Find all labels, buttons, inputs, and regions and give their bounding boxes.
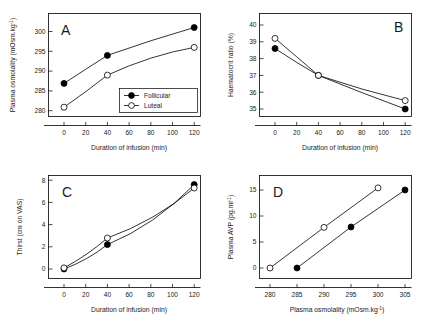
panel-c: 0 2 4 6 8 0 20 40 60 80: [0, 165, 211, 329]
data-point: [61, 265, 67, 271]
x-axis-labels: 0 20 40 60 80 100 120: [62, 291, 200, 298]
y-tick-label: 4: [42, 221, 46, 228]
data-point: [315, 72, 321, 78]
x-tick-label: 20: [82, 129, 90, 136]
data-point: [104, 242, 110, 248]
series-points-luteal: [272, 35, 408, 103]
series-line-luteal: [275, 38, 405, 100]
series-line-follicular: [64, 28, 194, 84]
panel-letter: D: [273, 184, 283, 200]
legend-marker-luteal: [129, 103, 135, 109]
x-tick-label: 20: [293, 129, 301, 136]
x-tick-label: 305: [399, 291, 410, 298]
panel-d-plot: 0 5 10 15 280 285 290 295 300 305: [211, 165, 422, 329]
y-tick-label: 0: [42, 265, 46, 272]
y-tick-label: 295: [34, 48, 45, 55]
x-tick-label: 0: [62, 129, 66, 136]
y-axis-title: Plasma osmolality (mOsm.kg-1): [9, 18, 17, 112]
y-tick-label: 36: [249, 89, 257, 96]
y-axis-labels: 0 2 4 6 8: [42, 177, 46, 273]
data-point: [272, 35, 278, 41]
y-tick-label: 8: [42, 177, 46, 184]
x-tick-label: 80: [147, 291, 155, 298]
data-point: [191, 185, 197, 191]
data-point: [375, 185, 381, 191]
legend: Follicular Luteal: [120, 89, 198, 113]
legend-label-follicular: Follicular: [144, 92, 171, 99]
data-point: [402, 106, 408, 112]
panel-b: 35 36 37 38 39 40 0 20 40 60: [211, 0, 422, 164]
series-points-follicular: [272, 46, 408, 113]
series-line-follicular: [275, 49, 405, 110]
y-tick-label: 0: [253, 264, 257, 271]
x-tick-label: 60: [125, 291, 133, 298]
x-tick-label: 40: [315, 129, 323, 136]
y-axis-title-main: Plasma osmolality: [9, 57, 17, 112]
legend-label-luteal: Luteal: [144, 102, 163, 109]
data-point: [348, 224, 354, 230]
y-axis-labels: 35 36 37 38 39 40: [249, 21, 257, 112]
figure-canvas: 280 285 290 295 300 0 20 40 60: [0, 0, 422, 329]
x-tick-label: 295: [345, 291, 356, 298]
y-axis-ticks: [260, 190, 264, 268]
y-axis-title-close: ): [9, 18, 17, 20]
data-point: [191, 25, 197, 31]
data-point: [104, 72, 110, 78]
x-tick-label: 100: [167, 291, 178, 298]
panel-d: 0 5 10 15 280 285 290 295 300 305: [211, 165, 422, 329]
plot-frame: [260, 14, 412, 117]
x-axis-title: Duration of infusion (min): [91, 306, 167, 314]
x-tick-label: 40: [104, 291, 112, 298]
x-axis-ticks: [275, 122, 405, 126]
data-point: [104, 52, 110, 58]
x-tick-label: 0: [273, 129, 277, 136]
series-points-follicular: [61, 182, 197, 272]
y-tick-label: 2: [42, 243, 46, 250]
y-axis-title-main: Plasma AVP (pg.ml: [227, 201, 235, 259]
svg-text:Plasma AVP (pg.ml-1): Plasma AVP (pg.ml-1): [227, 195, 235, 259]
y-axis-title: Haematocrit ratio (%): [227, 33, 235, 97]
x-axis-labels: 0 20 40 60 80 100 120: [273, 129, 411, 136]
y-axis-ticks: [49, 32, 53, 111]
y-tick-label: 10: [249, 212, 257, 219]
y-tick-label: 15: [249, 186, 257, 193]
x-axis-title: Duration of infusion (min): [91, 144, 167, 152]
x-axis-ticks: [270, 284, 405, 288]
data-point: [191, 44, 197, 50]
x-tick-label: 280: [264, 291, 275, 298]
data-point: [321, 224, 327, 230]
y-axis-title-unit: (mOsm.kg: [9, 24, 17, 56]
x-tick-label: 80: [147, 129, 155, 136]
panel-a: 280 285 290 295 300 0 20 40 60: [0, 0, 211, 164]
legend-marker-follicular: [129, 93, 135, 99]
data-point: [294, 265, 300, 271]
x-tick-label: 60: [125, 129, 133, 136]
data-point: [402, 187, 408, 193]
svg-text:Plasma osmolality: Plasma osmolality (mOsm.kg-1): [9, 18, 17, 112]
x-tick-label: 0: [62, 291, 66, 298]
x-tick-label: 40: [104, 129, 112, 136]
y-tick-label: 37: [249, 72, 257, 79]
panel-letter: C: [62, 184, 72, 200]
data-point: [267, 265, 273, 271]
panel-a-plot: 280 285 290 295 300 0 20 40 60: [0, 0, 211, 164]
x-tick-label: 120: [189, 291, 200, 298]
x-axis-ticks: [64, 122, 194, 126]
data-point: [61, 104, 67, 110]
panel-letter: A: [61, 22, 71, 38]
x-tick-label: 120: [189, 129, 200, 136]
panel-c-plot: 0 2 4 6 8 0 20 40 60 80: [0, 165, 211, 329]
x-axis-title-close: ): [382, 306, 384, 314]
y-tick-label: 6: [42, 199, 46, 206]
x-axis-labels: 0 20 40 60 80 100 120: [62, 129, 200, 136]
x-tick-label: 300: [372, 291, 383, 298]
y-tick-label: 38: [249, 55, 257, 62]
y-axis-ticks: [260, 25, 264, 109]
y-axis-labels: 280 285 290 295 300: [34, 28, 45, 114]
x-tick-label: 60: [336, 129, 344, 136]
series-points-follicular: [61, 25, 197, 87]
x-axis-title-main: Plasma osmolality (mOsm.kg: [290, 306, 378, 314]
y-axis-ticks: [49, 180, 53, 269]
panel-b-plot: 35 36 37 38 39 40 0 20 40 60: [211, 0, 422, 164]
y-tick-label: 280: [34, 107, 45, 114]
